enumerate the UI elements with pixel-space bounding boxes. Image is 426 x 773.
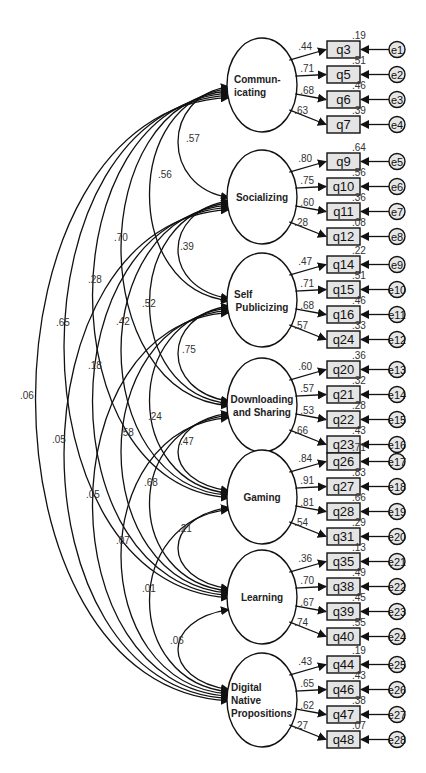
correlation-value: .57 bbox=[186, 133, 200, 144]
correlation-value: .70 bbox=[114, 232, 128, 243]
correlation-labels: .57.56.39.70.52.75.28.42.24.47.65.18.58.… bbox=[20, 133, 200, 646]
squared-multiple-correlation: .71 bbox=[352, 442, 366, 453]
indicator-q31: .54q31.29e20 bbox=[289, 517, 406, 545]
factor-loading: .68 bbox=[300, 85, 314, 96]
factor-loading: .65 bbox=[300, 678, 314, 689]
factor-label: icating bbox=[234, 87, 266, 98]
squared-multiple-correlation: .66 bbox=[352, 492, 366, 503]
error-term-label: e9 bbox=[391, 259, 403, 271]
correlation-value: .05 bbox=[52, 434, 66, 445]
error-term-label: e11 bbox=[388, 309, 406, 321]
indicator-q12: .28q12.08e8 bbox=[289, 217, 405, 245]
squared-multiple-correlation: .08 bbox=[352, 217, 366, 228]
factor-loading: .71 bbox=[300, 278, 314, 289]
indicator-q38: .70q38.49e22 bbox=[295, 567, 406, 595]
correlation-arc-learning-digital-native-propositions bbox=[178, 610, 229, 690]
loading-path bbox=[295, 187, 326, 189]
indicator-q22: .53q22.28e15 bbox=[295, 400, 406, 428]
indicator-q5: .71q5.51e2 bbox=[295, 55, 405, 83]
correlation-arc-downloading-and-sharing-gaming bbox=[178, 413, 229, 491]
indicator-q35: .36q35.13e21 bbox=[289, 542, 406, 572]
indicator-q3: .44q3.19e1 bbox=[289, 30, 405, 60]
factor-self-publicizing: SelfPublicizing bbox=[227, 253, 297, 347]
factor-loading: .71 bbox=[300, 63, 314, 74]
correlation-arc-communicating-learning bbox=[64, 95, 229, 597]
squared-multiple-correlation: .39 bbox=[352, 105, 366, 116]
loading-path bbox=[295, 290, 326, 292]
error-term-label: e4 bbox=[391, 119, 403, 131]
correlation-arcs bbox=[36, 87, 230, 701]
factor-digital-native-propositions: DigitalNativePropositions bbox=[227, 653, 297, 747]
factor-loading: .57 bbox=[300, 383, 314, 394]
observed-variable-label: q6 bbox=[336, 92, 350, 107]
correlation-value: .65 bbox=[56, 317, 70, 328]
factor-label: and Sharing bbox=[233, 407, 291, 418]
factor-loading: .67 bbox=[300, 597, 314, 608]
loading-path bbox=[295, 487, 326, 489]
factor-loading: .62 bbox=[300, 700, 314, 711]
correlation-value: .28 bbox=[88, 274, 102, 285]
observed-variable-label: q24 bbox=[333, 332, 355, 347]
latent-variable-ellipse bbox=[227, 358, 297, 452]
factor-label: Propositions bbox=[231, 708, 293, 719]
error-term-label: e19 bbox=[388, 506, 406, 518]
squared-multiple-correlation: .43 bbox=[352, 425, 366, 436]
factor-loading: .66 bbox=[294, 425, 308, 436]
squared-multiple-correlation: .45 bbox=[352, 592, 366, 603]
error-term-label: e25 bbox=[388, 659, 406, 671]
observed-variable-label: q11 bbox=[333, 204, 354, 219]
error-term-label: e12 bbox=[388, 334, 406, 346]
error-term-label: e23 bbox=[388, 606, 406, 618]
correlation-value: .39 bbox=[180, 241, 194, 252]
indicator-q16: .68q16.46e11 bbox=[295, 295, 406, 323]
correlation-value: .06 bbox=[170, 635, 184, 646]
correlation-value: .58 bbox=[120, 427, 134, 438]
correlation-value: .05 bbox=[86, 489, 100, 500]
error-term-label: e18 bbox=[388, 481, 406, 493]
factor-loading: .36 bbox=[298, 553, 312, 564]
squared-multiple-correlation: .32 bbox=[352, 375, 366, 386]
squared-multiple-correlation: .33 bbox=[352, 320, 366, 331]
factor-label: Downloading bbox=[231, 394, 294, 405]
factor-loading: .43 bbox=[298, 656, 312, 667]
factor-loading: .57 bbox=[294, 320, 308, 331]
factor-loading: .28 bbox=[294, 217, 308, 228]
indicator-q20: .60q20.36e13 bbox=[289, 350, 406, 380]
indicator-q28: .81q28.66e19 bbox=[295, 492, 406, 520]
indicator-q6: .68q6.46e3 bbox=[295, 80, 405, 108]
factor-label: Learning bbox=[241, 592, 283, 603]
correlation-value: .47 bbox=[180, 436, 194, 447]
loading-path bbox=[295, 690, 326, 692]
error-term-label: e7 bbox=[391, 206, 403, 218]
squared-multiple-correlation: .19 bbox=[352, 30, 366, 41]
factor-loading: .68 bbox=[300, 300, 314, 311]
correlation-value: .52 bbox=[142, 298, 156, 309]
observed-items: .44q3.19e1.71q5.51e2.68q6.46e3.63q7.39e4… bbox=[289, 30, 406, 748]
error-term-label: e24 bbox=[388, 631, 406, 643]
error-term-label: e28 bbox=[388, 734, 406, 746]
factor-label: Publicizing bbox=[236, 302, 289, 313]
factor-loading: .74 bbox=[294, 617, 308, 628]
factor-loading: .53 bbox=[300, 405, 314, 416]
factor-loading: .60 bbox=[298, 361, 312, 372]
error-term-label: e15 bbox=[388, 414, 406, 426]
observed-variable-label: q48 bbox=[333, 732, 355, 747]
squared-multiple-correlation: .22 bbox=[352, 245, 366, 256]
error-term-label: e5 bbox=[391, 156, 403, 168]
factor-loading: .70 bbox=[300, 575, 314, 586]
correlation-value: .21 bbox=[178, 523, 192, 534]
error-term-label: e16 bbox=[388, 439, 406, 451]
factor-loading: .63 bbox=[294, 105, 308, 116]
error-term-label: e2 bbox=[391, 69, 403, 81]
indicator-q44: .43q44.19e25 bbox=[289, 645, 406, 675]
factor-loading: .27 bbox=[294, 720, 308, 731]
factor-loading: .44 bbox=[298, 41, 312, 52]
squared-multiple-correlation: .56 bbox=[352, 167, 366, 178]
factor-socializing: Socializing bbox=[227, 150, 297, 244]
squared-multiple-correlation: .07 bbox=[352, 720, 366, 731]
observed-variable-label: q12 bbox=[333, 229, 355, 244]
indicator-q40: .74q40.55e24 bbox=[289, 617, 406, 645]
error-term-label: e17 bbox=[388, 456, 406, 468]
squared-multiple-correlation: .28 bbox=[352, 400, 366, 411]
factor-loading: .91 bbox=[300, 475, 314, 486]
